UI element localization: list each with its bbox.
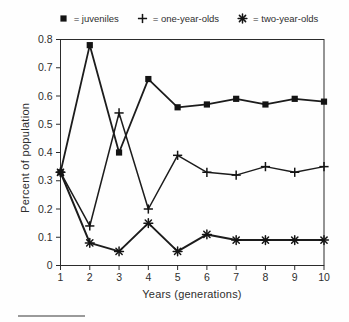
svg-text:9: 9: [292, 271, 298, 283]
svg-text:0.1: 0.1: [38, 231, 53, 243]
svg-text:3: 3: [116, 271, 122, 283]
svg-text:0.6: 0.6: [38, 90, 53, 102]
svg-text:0.8: 0.8: [38, 33, 53, 45]
svg-text:0.7: 0.7: [38, 61, 53, 73]
svg-text:7: 7: [233, 271, 239, 283]
svg-text:5: 5: [175, 271, 181, 283]
svg-text:0.4: 0.4: [38, 146, 53, 158]
svg-text:0: 0: [47, 259, 53, 271]
svg-text:10: 10: [318, 271, 330, 283]
x-axis-label: Years (generations): [60, 288, 324, 300]
bottom-left-rule: [18, 315, 85, 317]
svg-text:0.3: 0.3: [38, 174, 53, 186]
svg-text:6: 6: [204, 271, 210, 283]
svg-text:8: 8: [263, 271, 269, 283]
svg-text:4: 4: [145, 271, 151, 283]
figure-container: = juveniles = one-year-olds = two-year-o…: [0, 0, 349, 322]
chart-svg: 00.10.20.30.40.50.60.70.812345678910: [0, 0, 349, 322]
y-axis-label: Percent of population: [19, 103, 31, 213]
svg-text:2: 2: [87, 271, 93, 283]
svg-text:0.2: 0.2: [38, 203, 53, 215]
svg-text:0.5: 0.5: [38, 118, 53, 130]
svg-text:1: 1: [58, 271, 64, 283]
